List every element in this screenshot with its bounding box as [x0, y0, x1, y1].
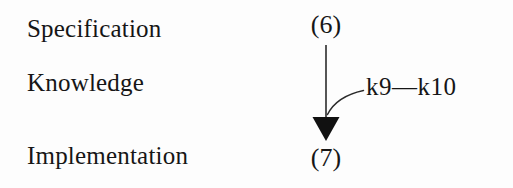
annotation-leader-curve: [328, 91, 364, 115]
annotation-label-k9-k10: k9—k10: [366, 74, 457, 99]
diagram-figure: Specification Knowledge Implementation (…: [0, 0, 513, 188]
arrowhead-triangle: [313, 117, 340, 141]
